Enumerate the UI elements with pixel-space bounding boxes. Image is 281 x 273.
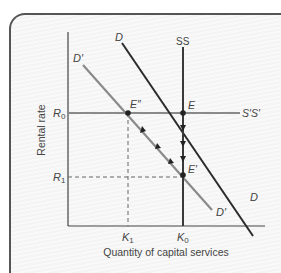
label-ss: SS (176, 36, 190, 47)
label-d-prime-bottom: D′ (216, 206, 227, 218)
tick-k1: K1 (122, 231, 134, 245)
label-s-prime-s-prime: S′S′ (242, 107, 261, 119)
label-e: E (188, 99, 196, 111)
label-e-double-prime: E″ (130, 98, 142, 110)
tick-r1: R1 (53, 171, 66, 185)
label-d-top: D (115, 31, 123, 43)
tick-k0: K0 (177, 231, 189, 245)
x-axis-title: Quantity of capital services (103, 246, 228, 258)
y-axis-title: Rental rate (35, 104, 47, 156)
capital-market-diagram: D D′ SS S′S′ D D′ E″ E E′ R0 R1 K1 K0 Qu… (0, 0, 281, 273)
original-demand-curve (122, 43, 253, 236)
point-e-double-prime (125, 110, 131, 116)
label-d-prime-top: D′ (73, 52, 84, 64)
label-d-bottom: D (250, 191, 258, 203)
up-arrows-icon (140, 126, 174, 164)
new-demand-curve (83, 65, 212, 210)
point-e (180, 110, 186, 116)
label-e-prime: E′ (188, 163, 198, 175)
point-e-prime (180, 172, 186, 178)
tick-r0: R0 (53, 107, 66, 121)
